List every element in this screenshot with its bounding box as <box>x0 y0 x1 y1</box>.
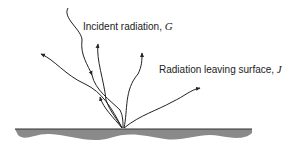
incident-text: Incident radiation, <box>83 21 165 32</box>
leaving-radiation-label: Radiation leaving surface, J <box>159 63 282 75</box>
emitted-ray-left <box>41 54 122 128</box>
leaving-text: Radiation leaving surface, <box>159 64 277 75</box>
emitted-ray-right <box>124 88 200 128</box>
incident-ray <box>67 8 92 75</box>
leaving-symbol: J <box>277 63 282 75</box>
incident-symbol: G <box>165 20 173 32</box>
surface <box>15 129 252 140</box>
radiation-diagram: Incident radiation, G Radiation leaving … <box>0 0 293 151</box>
incident-radiation-label: Incident radiation, G <box>83 20 173 32</box>
